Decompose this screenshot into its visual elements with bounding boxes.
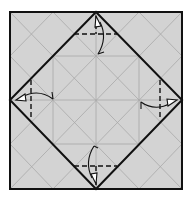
origami-diagram xyxy=(0,0,194,198)
